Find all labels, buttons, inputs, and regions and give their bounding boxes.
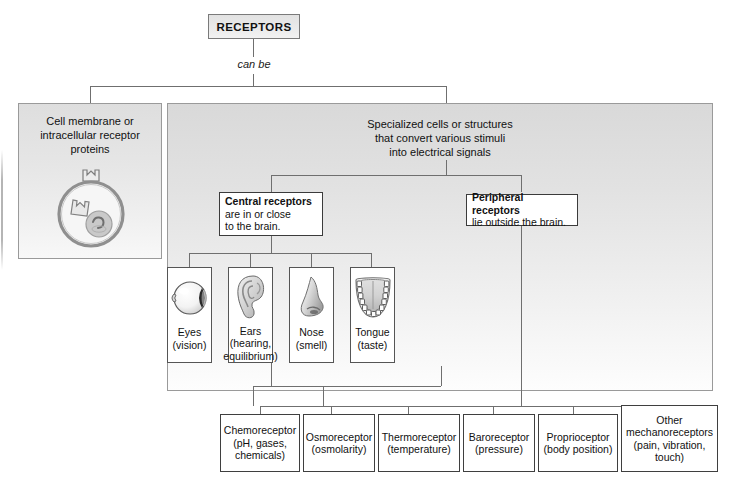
node-organ-tongue: Tongue (taste) [350,267,395,363]
connector-drop-central [271,175,272,192]
chemoreceptor-line-3: chemicals) [224,449,296,462]
left-panel-title-line-2: intracellular receptor [19,128,161,142]
node-thermoreceptor: Thermoreceptor (temperature) [378,414,460,472]
connector-peripheral-trunk [521,226,522,406]
chemoreceptor-line-2: (pH, gases, [224,437,296,450]
eye-icon-svg [169,276,211,320]
nose-label-line-1: Nose [296,326,328,339]
diagram-canvas: RECEPTORS can be Cell membrane or intrac… [0,0,731,485]
connector-root-stem-lower [253,74,254,86]
ears-label-line-1: Ears [223,325,277,338]
connector-drop-ears [250,253,251,267]
proprioceptor-line-2: (body position) [544,443,613,456]
cell-receptor-svg [41,162,141,254]
tongue-label: Tongue (taste) [355,326,389,351]
tongue-icon [351,272,394,324]
cell-receptor-icon [41,162,141,254]
other-mechanoreceptors-line-1: Other [626,414,713,427]
nose-icon-svg [294,275,330,321]
tongue-label-line-2: (taste) [355,339,389,352]
connector-upper-bar-left-drop [253,386,254,406]
ear-icon [229,272,272,323]
ears-label-line-3: equilibrium) [223,350,277,363]
node-other-mechanoreceptors: Other mechanoreceptors (pain, vibration,… [621,405,718,472]
right-panel-title-line-2: that convert various stimuli [168,131,712,145]
eye-icon [168,272,211,324]
nose-label-line-2: (smell) [296,339,328,352]
node-osmoreceptor: Osmoreceptor (osmolarity) [303,414,375,472]
eyes-label-line-1: Eyes [173,326,207,339]
connector-central-peripheral-bar [271,175,521,176]
peripheral-receptors-header: Peripheral receptors [472,191,572,216]
root-node-label: RECEPTORS [217,21,292,33]
tongue-label-line-1: Tongue [355,326,389,339]
node-organ-ears: Ears (hearing, equilibrium) [228,267,273,363]
eyes-label: Eyes (vision) [173,326,207,351]
central-receptors-sub-line-1: are in or close [225,208,291,221]
connector-drop-eyes [189,253,190,267]
left-panel-title-line-3: proteins [19,142,161,156]
ear-icon-svg [233,274,269,320]
other-mechanoreceptors-line-2: mechanoreceptors [626,426,713,439]
peripheral-receptors-sub-line-1: lie outside the brain. [472,216,566,229]
connector-central-stem [271,236,272,253]
connector-bottom-bar-upper [253,386,441,387]
right-panel-title-line-3: into electrical signals [168,145,712,159]
root-node-receptors: RECEPTORS [208,14,300,39]
connector-drop-proprioceptor [573,406,574,414]
other-mechanoreceptors-line-4: touch) [626,451,713,464]
node-baroreceptor: Baroreceptor (pressure) [463,414,535,472]
tongue-icon-svg [352,275,394,321]
connector-label-can-be: can be [213,58,295,70]
baroreceptor-line-1: Baroreceptor [469,431,530,444]
node-organ-nose: Nose (smell) [289,267,334,363]
right-panel-title: Specialized cells or structures that con… [168,117,712,159]
node-chemoreceptor: Chemoreceptor (pH, gases, chemicals) [220,414,300,472]
connector-drop-tongue [371,253,372,267]
osmoreceptor-line-1: Osmoreceptor [306,431,373,444]
node-organ-eyes: Eyes (vision) [167,267,212,363]
nose-icon [290,272,333,324]
baroreceptor-line-2: (pressure) [469,443,530,456]
proprioceptor-line-1: Proprioceptor [544,431,613,444]
connector-central-to-bottom [271,363,272,386]
connector-root-stem-upper [253,39,254,57]
central-receptors-header: Central receptors [225,195,312,208]
right-panel-title-line-1: Specialized cells or structures [168,117,712,131]
chemoreceptor-line-1: Chemoreceptor [224,424,296,437]
branch-panel-membrane-receptors: Cell membrane or intracellular receptor … [18,103,162,259]
page-edge-artifact [1,150,3,270]
thermoreceptor-line-2: (temperature) [382,443,457,456]
connector-drop-nose [311,253,312,267]
connector-drop-baroreceptor [493,406,494,414]
connector-drop-thermoreceptor [408,406,409,414]
connector-drop-right-branch [446,86,447,103]
connector-upper-bar-mid-drop [323,386,324,406]
connector-drop-left-branch [90,86,91,103]
connector-drop-peripheral [521,175,522,192]
nose-label: Nose (smell) [296,326,328,351]
connector-root-split-bar [90,86,447,87]
eyes-label-line-2: (vision) [173,339,207,352]
ears-label-line-2: (hearing, [223,337,277,350]
ears-label: Ears (hearing, equilibrium) [223,325,277,363]
node-central-receptors: Central receptors are in or close to the… [219,192,323,236]
central-receptors-sub-line-2: to the brain. [225,220,280,233]
connector-drop-osmoreceptor [331,406,332,414]
node-peripheral-receptors: Peripheral receptors lie outside the bra… [466,194,578,226]
connector-organs-bar [189,253,371,254]
connector-bottom-bar-lower [260,406,668,407]
connector-drop-chemoreceptor [260,406,261,414]
connector-right-title-stem [446,160,447,175]
left-panel-title: Cell membrane or intracellular receptor … [19,114,161,156]
osmoreceptor-line-2: (osmolarity) [306,443,373,456]
other-mechanoreceptors-line-3: (pain, vibration, [626,439,713,452]
node-proprioceptor: Proprioceptor (body position) [538,414,618,472]
left-panel-title-line-1: Cell membrane or [19,114,161,128]
connector-upper-bar-right-riser [441,366,442,386]
thermoreceptor-line-1: Thermoreceptor [382,431,457,444]
